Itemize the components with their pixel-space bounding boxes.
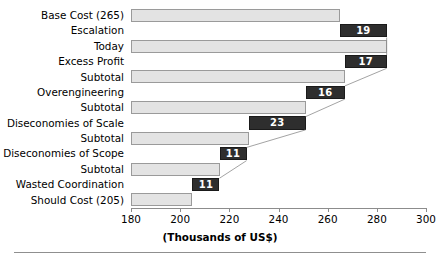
bar-value-label: 17 xyxy=(346,56,386,67)
bar-value-label: 23 xyxy=(250,117,305,128)
x-tick-label: 200 xyxy=(170,213,190,225)
delta-bar: 19 xyxy=(340,24,387,37)
delta-bar: 11 xyxy=(220,147,247,160)
category-label: Diseconomies of Scale xyxy=(0,116,129,131)
category-label: Escalation xyxy=(0,23,129,38)
x-axis-title: (Thousands of US$) xyxy=(0,231,440,243)
cumulative-bar xyxy=(131,132,249,145)
chart-row xyxy=(131,39,426,54)
chart-row xyxy=(131,8,426,23)
cumulative-bar xyxy=(131,101,306,114)
category-label: Today xyxy=(0,39,129,54)
x-tick-label: 240 xyxy=(269,213,289,225)
x-tick-mark xyxy=(229,208,230,212)
chart-row: 11 xyxy=(131,146,426,161)
delta-bar: 23 xyxy=(249,116,306,129)
x-tick-label: 280 xyxy=(367,213,387,225)
category-label: Subtotal xyxy=(0,70,129,85)
category-label: Overengineering xyxy=(0,85,129,100)
x-tick-mark xyxy=(279,208,280,212)
plot-area: 191716231111 xyxy=(131,8,426,208)
chart-row xyxy=(131,131,426,146)
delta-bar: 16 xyxy=(306,86,345,99)
category-label: Excess Profit xyxy=(0,54,129,69)
bar-value-label: 11 xyxy=(193,179,218,190)
x-tick-label: 300 xyxy=(416,213,436,225)
x-tick-mark xyxy=(180,208,181,212)
delta-bar: 11 xyxy=(192,178,219,191)
chart-row: 17 xyxy=(131,54,426,69)
category-label: Diseconomies of Scope xyxy=(0,146,129,161)
chart-row xyxy=(131,100,426,115)
chart-row: 19 xyxy=(131,23,426,38)
bar-value-label: 16 xyxy=(307,87,344,98)
x-tick-label: 220 xyxy=(219,213,239,225)
chart-row xyxy=(131,193,426,208)
cumulative-bar xyxy=(131,9,340,22)
chart-row: 11 xyxy=(131,177,426,192)
category-label: Base Cost (265) xyxy=(0,8,129,23)
chart-row xyxy=(131,70,426,85)
cumulative-bar xyxy=(131,40,387,53)
x-tick-label: 260 xyxy=(318,213,338,225)
category-label: Wasted Coordination xyxy=(0,177,129,192)
x-tick-mark xyxy=(377,208,378,212)
category-label: Should Cost (205) xyxy=(0,193,129,208)
chart-row xyxy=(131,162,426,177)
cumulative-bar xyxy=(131,193,192,206)
category-label-column: Base Cost (265)EscalationTodayExcess Pro… xyxy=(0,8,129,208)
chart-row: 23 xyxy=(131,116,426,131)
x-tick-mark xyxy=(328,208,329,212)
waterfall-chart: Base Cost (265)EscalationTodayExcess Pro… xyxy=(0,0,440,265)
x-tick-mark xyxy=(426,208,427,212)
bar-value-label: 19 xyxy=(341,25,386,36)
bar-value-label: 11 xyxy=(221,148,246,159)
category-label: Subtotal xyxy=(0,162,129,177)
x-tick-mark xyxy=(131,208,132,212)
category-label: Subtotal xyxy=(0,131,129,146)
chart-row: 16 xyxy=(131,85,426,100)
cumulative-bar xyxy=(131,70,345,83)
delta-bar: 17 xyxy=(345,55,387,68)
bottom-divider-rule xyxy=(14,252,426,253)
cumulative-bar xyxy=(131,163,220,176)
category-label: Subtotal xyxy=(0,100,129,115)
x-tick-label: 180 xyxy=(121,213,141,225)
